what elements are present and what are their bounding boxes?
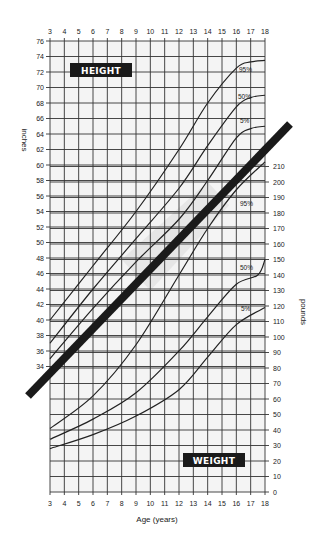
- weight-badge: WEIGHT: [183, 453, 245, 467]
- svg-text:200: 200: [273, 179, 285, 186]
- svg-text:160: 160: [273, 241, 285, 248]
- svg-text:62: 62: [36, 146, 44, 153]
- y-axis-right-title: pounds: [299, 299, 308, 325]
- svg-text:14: 14: [204, 500, 212, 507]
- svg-text:190: 190: [273, 194, 285, 201]
- svg-text:100: 100: [273, 334, 285, 341]
- svg-text:74: 74: [36, 53, 44, 60]
- svg-text:54: 54: [36, 208, 44, 215]
- svg-text:6: 6: [91, 28, 95, 35]
- svg-text:70: 70: [36, 84, 44, 91]
- svg-text:0: 0: [273, 489, 277, 496]
- svg-text:48: 48: [36, 255, 44, 262]
- y-axis-left-title: inches: [20, 128, 29, 151]
- svg-text:7: 7: [105, 500, 109, 507]
- svg-text:140: 140: [273, 272, 285, 279]
- svg-text:150: 150: [273, 256, 285, 263]
- svg-text:90: 90: [273, 349, 281, 356]
- svg-text:50%: 50%: [240, 264, 253, 271]
- svg-text:40: 40: [273, 427, 281, 434]
- svg-text:17: 17: [247, 500, 255, 507]
- svg-text:76: 76: [36, 38, 44, 45]
- svg-text:46: 46: [36, 270, 44, 277]
- svg-text:5: 5: [77, 500, 81, 507]
- svg-text:7: 7: [105, 28, 109, 35]
- svg-text:9: 9: [134, 28, 138, 35]
- svg-text:16: 16: [232, 28, 240, 35]
- svg-text:18: 18: [261, 28, 269, 35]
- height-badge: HEIGHT: [70, 63, 132, 77]
- svg-text:18: 18: [261, 500, 269, 507]
- y-axis-left-ticks: 3436384042444648505254565860626466687072…: [36, 38, 44, 371]
- svg-text:3: 3: [48, 28, 52, 35]
- svg-text:36: 36: [36, 348, 44, 355]
- svg-text:12: 12: [175, 500, 183, 507]
- svg-text:15: 15: [218, 500, 226, 507]
- svg-text:130: 130: [273, 287, 285, 294]
- svg-text:8: 8: [120, 500, 124, 507]
- svg-text:5: 5: [77, 28, 81, 35]
- svg-text:13: 13: [189, 500, 197, 507]
- svg-text:17: 17: [247, 28, 255, 35]
- svg-text:14: 14: [204, 28, 212, 35]
- svg-text:52: 52: [36, 224, 44, 231]
- svg-text:95%: 95%: [239, 66, 252, 73]
- svg-text:12: 12: [175, 28, 183, 35]
- svg-text:5%: 5%: [240, 117, 250, 124]
- svg-text:10: 10: [146, 28, 154, 35]
- x-axis-title: Age (years): [136, 515, 178, 524]
- svg-text:4: 4: [62, 500, 66, 507]
- svg-text:30: 30: [273, 442, 281, 449]
- svg-text:42: 42: [36, 301, 44, 308]
- growth-chart: 3456789101112131415161718 34567891011121…: [0, 0, 324, 550]
- svg-text:4: 4: [62, 28, 66, 35]
- svg-text:66: 66: [36, 115, 44, 122]
- svg-text:WEIGHT: WEIGHT: [193, 456, 236, 466]
- svg-text:120: 120: [273, 303, 285, 310]
- svg-text:20: 20: [273, 458, 281, 465]
- svg-text:10: 10: [273, 473, 281, 480]
- svg-text:110: 110: [273, 318, 284, 325]
- svg-text:58: 58: [36, 177, 44, 184]
- svg-text:64: 64: [36, 131, 44, 138]
- svg-text:72: 72: [36, 69, 44, 76]
- svg-text:56: 56: [36, 193, 44, 200]
- svg-text:11: 11: [161, 28, 168, 35]
- svg-text:HEIGHT: HEIGHT: [81, 66, 121, 76]
- x-axis-bottom-ticks: 3456789101112131415161718: [48, 500, 269, 507]
- svg-text:70: 70: [273, 380, 281, 387]
- svg-text:3: 3: [48, 500, 52, 507]
- svg-text:80: 80: [273, 365, 281, 372]
- svg-text:95%: 95%: [240, 200, 253, 207]
- svg-text:38: 38: [36, 332, 44, 339]
- svg-text:60: 60: [36, 162, 44, 169]
- svg-text:50%: 50%: [238, 93, 251, 100]
- x-axis-top-ticks: 3456789101112131415161718: [48, 28, 269, 35]
- svg-text:16: 16: [232, 500, 240, 507]
- svg-text:50: 50: [36, 239, 44, 246]
- svg-text:11: 11: [161, 500, 168, 507]
- svg-text:44: 44: [36, 286, 44, 293]
- svg-text:50: 50: [273, 411, 281, 418]
- svg-text:5%: 5%: [241, 305, 251, 312]
- svg-text:15: 15: [218, 28, 226, 35]
- svg-text:10: 10: [146, 500, 154, 507]
- svg-text:34: 34: [36, 363, 44, 370]
- svg-text:60: 60: [273, 396, 281, 403]
- svg-text:180: 180: [273, 210, 285, 217]
- y-axis-right-ticks: 0102030405060708090100110120130140150160…: [273, 163, 285, 496]
- svg-text:9: 9: [134, 500, 138, 507]
- svg-text:40: 40: [36, 317, 44, 324]
- svg-text:68: 68: [36, 100, 44, 107]
- svg-text:8: 8: [120, 28, 124, 35]
- svg-text:170: 170: [273, 225, 285, 232]
- svg-text:6: 6: [91, 500, 95, 507]
- svg-text:210: 210: [273, 163, 285, 170]
- svg-text:13: 13: [189, 28, 197, 35]
